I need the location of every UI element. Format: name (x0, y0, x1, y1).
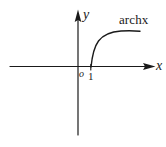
curve-label-archx: archx (119, 13, 148, 26)
archx-curve (91, 31, 140, 67)
math-figure-canvas: y x o 1 archx (0, 0, 166, 147)
x-tick-label-one: 1 (88, 71, 94, 82)
y-axis-label: y (83, 8, 89, 22)
x-axis-label: x (156, 59, 162, 73)
origin-label: o (79, 69, 84, 79)
